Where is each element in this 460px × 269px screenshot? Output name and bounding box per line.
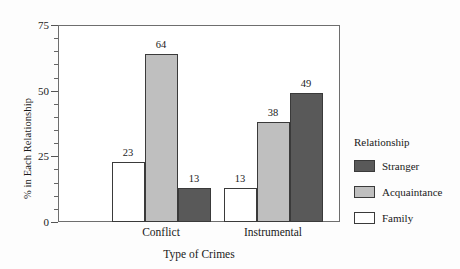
tick-mark	[54, 104, 58, 105]
y-axis-tick-label: 75	[38, 20, 49, 31]
tick-mark	[54, 196, 58, 197]
bar	[145, 54, 178, 222]
tick-mark	[54, 209, 58, 210]
tick-mark	[54, 117, 58, 118]
tick-mark	[51, 25, 58, 26]
bar-value-label: 13	[189, 174, 200, 185]
tick-mark	[54, 183, 58, 184]
bar	[112, 162, 145, 222]
tick-mark	[54, 143, 58, 144]
x-axis-title: Type of Crimes	[58, 248, 340, 260]
legend: Relationship StrangerAcquaintanceFamily	[354, 136, 458, 233]
legend-swatch	[354, 212, 375, 224]
tick-mark	[54, 51, 58, 52]
bar-value-label: 13	[235, 174, 246, 185]
legend-swatch	[354, 186, 375, 198]
x-axis-tick-label: Instrumental	[244, 226, 302, 238]
legend-item: Acquaintance	[354, 181, 458, 203]
tick-mark	[51, 91, 58, 92]
bar	[257, 122, 290, 222]
tick-mark	[54, 130, 58, 131]
y-axis-tick-label: 50	[38, 85, 49, 96]
legend-swatch	[354, 160, 375, 172]
tick-mark	[51, 156, 58, 157]
legend-label: Family	[382, 212, 413, 224]
legend-item: Family	[354, 207, 458, 229]
legend-entries: StrangerAcquaintanceFamily	[354, 155, 458, 229]
bar-value-label: 64	[156, 40, 167, 51]
y-axis-title: % in Each Relationship	[22, 50, 40, 247]
bar-value-label: 38	[268, 108, 279, 119]
legend-label: Acquaintance	[382, 186, 442, 198]
tick-mark	[54, 38, 58, 39]
tick-mark	[54, 169, 58, 170]
plot-area: 0255075236413133849	[58, 25, 340, 222]
tick-mark	[51, 222, 58, 223]
bar	[224, 188, 257, 222]
y-axis-tick-label: 25	[38, 151, 49, 162]
bar	[290, 93, 323, 222]
bar-value-label: 49	[301, 79, 312, 90]
bar	[178, 188, 211, 222]
y-axis-tick-label: 0	[44, 217, 50, 228]
legend-title: Relationship	[354, 136, 458, 148]
tick-mark	[54, 78, 58, 79]
legend-label: Stranger	[382, 160, 419, 172]
legend-item: Stranger	[354, 155, 458, 177]
bar-chart-figure: % in Each Relationship 02550752364131338…	[0, 0, 460, 269]
x-axis-tick-label: Conflict	[142, 226, 180, 238]
tick-mark	[54, 64, 58, 65]
bar-value-label: 23	[123, 148, 134, 159]
